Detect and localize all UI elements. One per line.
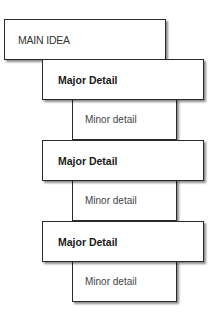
minor-detail-label: Minor detail: [85, 195, 137, 206]
main-idea-label: MAIN IDEA: [18, 34, 70, 46]
major-detail-label: Major Detail: [58, 74, 118, 86]
minor-detail-box-1: Minor detail: [72, 99, 177, 140]
major-detail-box-3: Major Detail: [42, 221, 204, 262]
major-detail-label: Major Detail: [58, 236, 118, 248]
main-idea-box: MAIN IDEA: [4, 19, 166, 60]
minor-detail-box-2: Minor detail: [72, 180, 177, 221]
major-detail-box-2: Major Detail: [42, 140, 204, 181]
minor-detail-box-3: Minor detail: [72, 261, 177, 302]
minor-detail-label: Minor detail: [85, 276, 137, 287]
minor-detail-label: Minor detail: [85, 114, 137, 125]
major-detail-box-1: Major Detail: [42, 59, 204, 100]
major-detail-label: Major Detail: [58, 155, 118, 167]
